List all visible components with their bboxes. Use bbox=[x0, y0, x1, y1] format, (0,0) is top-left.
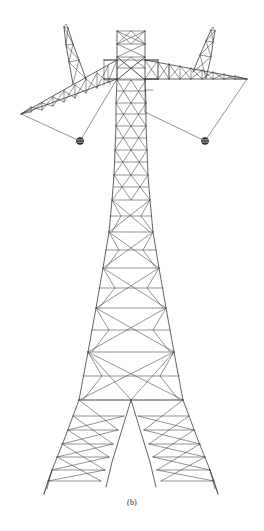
left-insulator bbox=[76, 137, 83, 144]
figure-container: (b) bbox=[0, 0, 264, 531]
peak-mast-left bbox=[64, 24, 86, 84]
crossarm-right bbox=[145, 60, 247, 112]
mast-diamond-panels bbox=[79, 175, 183, 400]
mast-k-brace-panels bbox=[114, 80, 148, 175]
transmission-tower-drawing bbox=[0, 0, 264, 531]
right-insulator bbox=[201, 137, 208, 144]
figure-caption: (b) bbox=[0, 498, 264, 507]
crossarm-left bbox=[21, 60, 117, 114]
peak-mast-right bbox=[193, 27, 215, 78]
tower-split-legs bbox=[44, 352, 218, 494]
mast-top-bracing bbox=[117, 31, 145, 80]
suspension-lines bbox=[21, 79, 247, 141]
